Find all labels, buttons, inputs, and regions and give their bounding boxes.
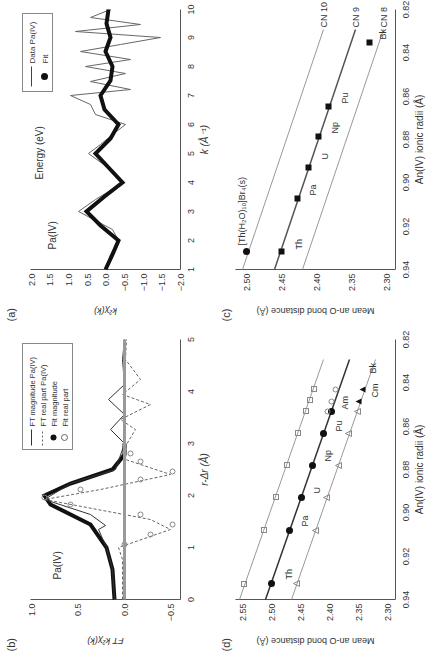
xtick: 0.84 <box>400 373 410 391</box>
xtick: 5 <box>185 150 195 155</box>
panel-c-label: (c) <box>219 308 231 321</box>
legend-item: Data Pa(IV) <box>27 21 36 63</box>
xtick: 0.86 <box>400 87 410 105</box>
xtick: 1 <box>185 544 195 549</box>
cn8-line <box>302 29 383 269</box>
cn10-label: CN 10 <box>318 1 328 27</box>
fit-real-part-points <box>42 451 175 547</box>
x-axis-label: An(IV) ionic radii (Å) <box>412 94 424 183</box>
ytick: 0.5 <box>72 603 82 616</box>
ytick: 2.50 <box>266 603 276 621</box>
panel-a: (a) 2.0 1.5 1.0 0.5 0.0 −0.5 −1.0 −1.5 −… <box>0 0 214 329</box>
xtick: 9 <box>185 34 195 39</box>
ytick: 1.0 <box>26 603 36 616</box>
annotation: [Th(H₂O)₁₀]Br₄(s) <box>236 177 246 245</box>
x-axis-label: An(IV) ionic radii (Å) <box>412 424 424 513</box>
xtick: 0.82 <box>400 0 410 18</box>
panel-d-label: (d) <box>219 638 231 651</box>
annotation: Pa(IV) <box>46 221 57 249</box>
xtick: 8 <box>185 63 195 68</box>
cn10-line <box>242 29 323 269</box>
ytick: 2.40 <box>324 603 334 621</box>
ytick: 0.0 <box>119 603 129 616</box>
cn10-line <box>239 359 323 599</box>
cn9-line <box>265 359 349 599</box>
xtick: 10 <box>185 4 195 14</box>
ytick: 2.50 <box>241 273 251 291</box>
xtick: 0.94 <box>400 260 410 278</box>
y-axis-label: Mean an-O bond distance (Å) <box>256 305 374 315</box>
y-axis-label: Mean an-O bond distance (Å) <box>256 635 374 645</box>
xtick: 0.86 <box>400 417 410 435</box>
xtick: 6 <box>185 121 195 126</box>
xtick: 3 <box>185 440 195 445</box>
cn8-label: CN 8 <box>378 6 388 27</box>
point-label: Np <box>329 121 339 133</box>
ytick: 2.40 <box>311 273 321 291</box>
ytick: −0.5 <box>165 603 175 621</box>
point-label: Pu <box>333 420 343 431</box>
xtick: 1 <box>185 266 195 271</box>
xtick: 0.94 <box>400 590 410 608</box>
panel-c: (c) 2.50 2.45 2.40 2.35 2.30 0.94 0.92 0… <box>215 0 429 329</box>
xtick: 0 <box>185 596 195 601</box>
point-label: U <box>311 487 321 494</box>
xtick: 2 <box>185 492 195 497</box>
point-label: U <box>319 153 329 160</box>
annotation: Pa(IV) <box>51 551 62 579</box>
legend-item: Fit real part <box>60 387 69 426</box>
panel-b: (b) 1.0 0.5 0.0 −0.5 0 1 2 3 4 5 r-Δr (Å… <box>0 330 214 659</box>
panel-a-label: (a) <box>4 308 16 321</box>
ytick: 0.0 <box>100 273 110 286</box>
data-line <box>70 9 160 269</box>
ytick: 2.45 <box>276 273 286 291</box>
point-label: Pa <box>299 515 309 526</box>
panel-b-label: (b) <box>4 638 16 651</box>
ytick: 2.30 <box>382 603 392 621</box>
point-label: Am <box>339 396 349 410</box>
legend <box>22 13 52 91</box>
point-label: Np <box>322 449 332 461</box>
xtick: 7 <box>185 92 195 97</box>
ytick: 2.35 <box>353 603 363 621</box>
point-label: Th <box>293 238 303 249</box>
cn8-line <box>291 359 375 599</box>
ytick: 1.5 <box>44 273 54 286</box>
xtick: 5 <box>185 336 195 341</box>
ytick: 2.45 <box>295 603 305 621</box>
xtick: 2 <box>185 237 195 242</box>
ytick: −0.5 <box>119 273 129 291</box>
xtick: 0.84 <box>400 43 410 61</box>
ytick: 2.30 <box>381 273 391 291</box>
legend-item: FT magnitude Pa(IV) <box>27 356 36 426</box>
xtick: 0.88 <box>400 460 410 478</box>
legend-item: Fit magnitude <box>49 381 58 426</box>
x-axis-label: r-Δr (Å) <box>197 453 209 486</box>
energy-label: Energy (eV) <box>33 126 44 179</box>
point-label: Pa <box>307 184 317 195</box>
xtick: 0.90 <box>400 503 410 521</box>
cn9-label: CN 9 <box>350 6 360 27</box>
ytick: 1.0 <box>63 273 73 286</box>
ytick: 2.55 <box>237 603 247 621</box>
ytick: −1.0 <box>138 273 148 291</box>
ytick: 2.35 <box>346 273 356 291</box>
point-label: Bk <box>377 28 387 39</box>
xtick: 0.82 <box>400 330 410 348</box>
y-axis-label: FT k²χ(k) <box>87 635 123 645</box>
legend-item: Fit <box>40 53 49 63</box>
xtick: 0.88 <box>400 130 410 148</box>
xtick: 4 <box>185 179 195 184</box>
point-label: Cm <box>369 383 379 397</box>
xtick: 0.90 <box>400 173 410 191</box>
xtick: 4 <box>185 388 195 393</box>
ytick: 0.5 <box>82 273 92 286</box>
point-label: Pu <box>339 92 349 103</box>
point-label: Th <box>283 568 293 579</box>
ytick: 2.0 <box>26 273 36 286</box>
point-label: Bk <box>367 362 377 373</box>
ytick: −1.5 <box>156 273 166 291</box>
xtick: 0.92 <box>400 547 410 565</box>
legend-item: FT real part Pa(IV) <box>38 364 47 426</box>
panel-d: (d) 2.55 2.50 2.45 2.40 2.35 2.30 0.94 0… <box>215 330 429 659</box>
